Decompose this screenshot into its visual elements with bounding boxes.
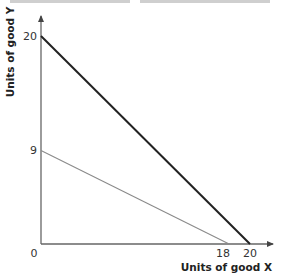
x-tick-label: 20	[243, 247, 257, 260]
y-axis-title: Units of good Y	[4, 6, 16, 97]
x-tick-label: 0	[31, 247, 38, 260]
series-line-budget-line-20-20	[41, 36, 250, 244]
budget-line-chart: 01820920 Units of good Y Units of good X	[0, 0, 283, 280]
series-line-budget-line-9-18	[41, 150, 229, 244]
y-tick-label: 9	[30, 144, 37, 157]
x-axis-title: Units of good X	[181, 261, 272, 273]
y-tick-label: 20	[23, 30, 37, 43]
x-tick-label: 18	[216, 247, 230, 260]
